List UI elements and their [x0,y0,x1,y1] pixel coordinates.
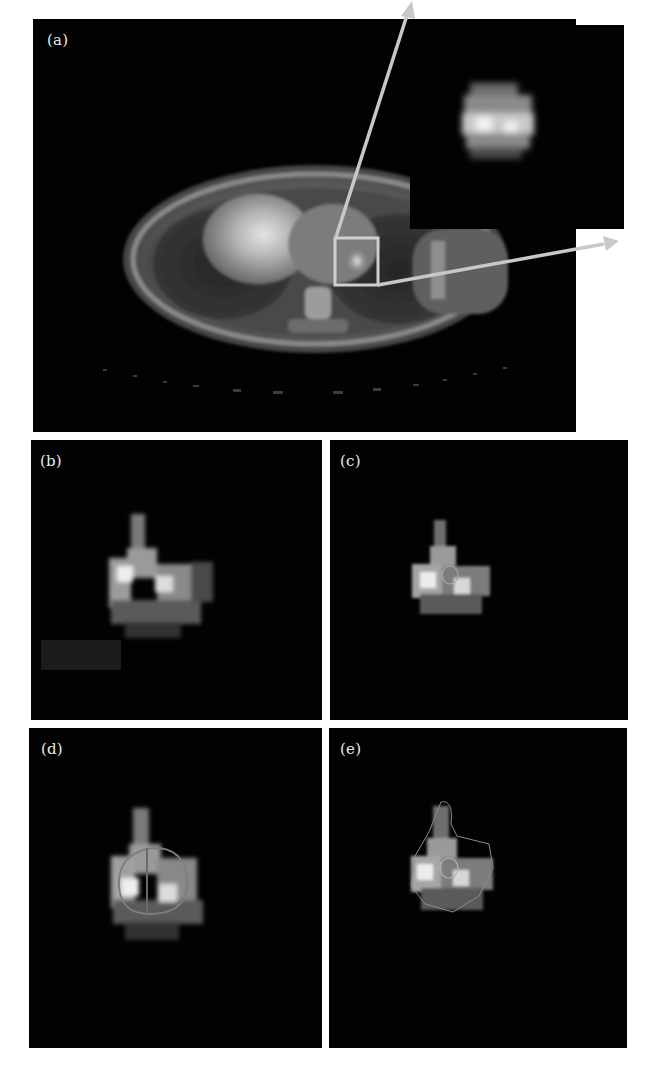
panel-label-a: (a) [47,31,68,49]
inset-uptake-image [410,25,624,229]
panel-a-inset [410,25,624,229]
uptake-image-b [31,440,322,720]
panel-b: (b) [31,440,322,720]
uptake-image-c [330,440,628,720]
panel-e: (e) [329,728,627,1048]
panel-label-b: (b) [40,452,62,470]
panel-label-c: (c) [340,452,361,470]
uptake-image-d [29,728,322,1048]
uptake-image-e [329,728,627,1048]
panel-label-e: (e) [340,740,361,758]
panel-c: (c) [330,440,628,720]
panel-d: (d) [29,728,322,1048]
panel-label-d: (d) [41,740,63,758]
